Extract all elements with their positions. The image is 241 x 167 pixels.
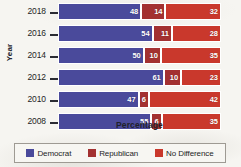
bar-segment-democrat: 61 (58, 69, 164, 86)
y-tick-label: 2012 (14, 72, 46, 82)
bar-segment-republican: 6 (139, 91, 149, 108)
bar-segment-democrat: 54 (58, 25, 153, 42)
segment-value-label: 10 (150, 52, 160, 60)
plot-area: Year 20184814322016541128201450103520126… (0, 0, 241, 136)
bar-segment-no-difference: 35 (161, 47, 221, 64)
legend-swatch-icon (155, 149, 163, 157)
bar-segment-no-difference: 28 (172, 25, 221, 42)
bar-segment-no-difference: 42 (149, 91, 221, 108)
y-tick-label: 2010 (14, 94, 46, 104)
y-tick-mark (50, 12, 58, 14)
segment-value-label: 11 (161, 30, 171, 38)
segment-value-label: 32 (210, 8, 220, 16)
stacked-bar: 481432 (58, 3, 221, 20)
segment-value-label: 6 (142, 96, 148, 104)
x-axis-title: Percentage (58, 120, 221, 130)
bar-segment-republican: 14 (141, 3, 165, 20)
stacked-bar: 47642 (58, 91, 221, 108)
y-tick-label: 2018 (14, 6, 46, 16)
segment-value-label: 10 (170, 74, 180, 82)
segment-value-label: 35 (210, 52, 220, 60)
y-tick-mark (50, 56, 58, 58)
y-tick-mark (50, 78, 58, 80)
legend-swatch-icon (88, 149, 96, 157)
y-tick-mark (50, 122, 58, 124)
bar-row: 2016541128 (0, 24, 241, 46)
chart-figure: Year 20184814322016541128201450103520126… (0, 0, 241, 167)
y-tick-mark (50, 34, 58, 36)
legend-item-democrat[interactable]: Democrat (26, 149, 71, 158)
legend-label: Democrat (37, 149, 71, 158)
bar-segment-democrat: 50 (58, 47, 144, 64)
stacked-bar: 541128 (58, 25, 221, 42)
legend-swatch-icon (26, 149, 34, 157)
bar-row: 2014501035 (0, 46, 241, 68)
bar-row: 2012611023 (0, 68, 241, 90)
stacked-bar: 611023 (58, 69, 221, 86)
segment-value-label: 47 (127, 96, 137, 104)
chart-legend: DemocratRepublicanNo Difference (14, 143, 226, 163)
y-tick-label: 2008 (14, 116, 46, 126)
bar-segment-democrat: 48 (58, 3, 141, 20)
bar-segment-no-difference: 23 (181, 69, 221, 86)
bar-row: 201047642 (0, 90, 241, 112)
segment-value-label: 23 (210, 74, 220, 82)
stacked-bar: 501035 (58, 47, 221, 64)
segment-value-label: 61 (152, 74, 162, 82)
segment-value-label: 54 (141, 30, 151, 38)
segment-value-label: 14 (154, 8, 164, 16)
legend-label: No Difference (166, 149, 213, 158)
segment-value-label: 48 (130, 8, 140, 16)
bar-segment-republican: 10 (144, 47, 161, 64)
segment-value-label: 28 (210, 30, 220, 38)
legend-item-no-difference[interactable]: No Difference (155, 149, 213, 158)
bar-segment-republican: 11 (153, 25, 172, 42)
legend-item-republican[interactable]: Republican (88, 149, 138, 158)
y-tick-mark (50, 100, 58, 102)
segment-value-label: 42 (210, 96, 220, 104)
legend-label: Republican (99, 149, 138, 158)
y-tick-label: 2014 (14, 50, 46, 60)
bar-rows: 2018481432201654112820145010352012611023… (0, 2, 241, 134)
y-tick-label: 2016 (14, 28, 46, 38)
segment-value-label: 50 (132, 52, 142, 60)
bar-segment-republican: 10 (164, 69, 181, 86)
bar-segment-democrat: 47 (58, 91, 139, 108)
bar-row: 2018481432 (0, 2, 241, 24)
bar-segment-no-difference: 32 (165, 3, 220, 20)
